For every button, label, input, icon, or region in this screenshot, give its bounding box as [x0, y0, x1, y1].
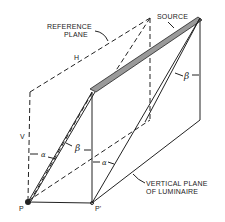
p-prime-label: P': [95, 205, 101, 212]
reference-plane-label-2: PLANE: [64, 31, 88, 38]
v-label: V: [20, 133, 25, 140]
ray-source-to-p-prime: [92, 18, 200, 203]
vertical-plane-label-1: VERTICAL PLANE: [146, 180, 208, 187]
alpha-right-tick-2: [108, 162, 114, 164]
ray-source-end-to-p-2: [31, 92, 95, 201]
source-leader: [168, 22, 174, 28]
vertical-plane-label-2: OF LUMINAIRE: [146, 188, 198, 195]
p-label: P: [19, 205, 24, 212]
beta-projection-dashed: [32, 93, 92, 198]
reference-plane-label-1: REFERENCE: [47, 23, 92, 30]
beta-right-tick: [175, 73, 183, 76]
reference-plane-leader: [95, 31, 108, 41]
beta-left-label: β: [74, 143, 80, 153]
source-label: SOURCE: [157, 13, 188, 20]
ground-line: [28, 202, 92, 203]
beta-left-tick: [66, 143, 72, 146]
reference-plane-bottom-dashed: [28, 120, 150, 201]
point-p: [25, 199, 31, 205]
alpha-right-label: α: [102, 159, 107, 167]
beta-right-label: β: [183, 71, 189, 81]
ray-source-end-to-p: [28, 92, 92, 202]
h-label: H: [74, 54, 79, 61]
alpha-left-label: α: [41, 151, 46, 159]
vertical-plane-leader: [133, 174, 145, 183]
reference-plane-v-edge: [28, 92, 30, 200]
luminaire-geometry-diagram: SOURCE REFERENCE PLANE H V α β α β P P' …: [0, 0, 225, 222]
